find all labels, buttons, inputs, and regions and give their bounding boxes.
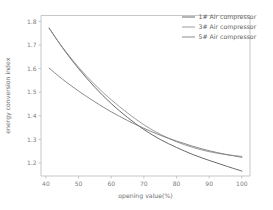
y-tick-label: 1.3 — [27, 136, 37, 143]
x-tick-label: 80 — [173, 180, 181, 187]
chart-legend: 1# Air compressor3# Air compressor5# Air… — [182, 13, 257, 41]
data-series-group — [49, 28, 242, 171]
series-line-1 — [49, 28, 242, 171]
x-tick-label: 90 — [205, 180, 213, 187]
line-chart: 405060708090100 1.21.31.41.51.61.71.8 op… — [0, 0, 273, 210]
x-tick-label: 100 — [236, 180, 248, 187]
x-tick-label: 50 — [75, 180, 83, 187]
legend-label-2: 3# Air compressor — [199, 23, 257, 31]
y-tick-label: 1.2 — [27, 159, 37, 166]
x-axis-ticks: 405060708090100 — [42, 176, 248, 187]
legend-label-3: 5# Air compressor — [199, 33, 257, 41]
series-line-3 — [49, 68, 242, 157]
y-tick-label: 1.4 — [27, 112, 37, 119]
x-tick-label: 40 — [42, 180, 50, 187]
x-axis-title: opening value(%) — [118, 192, 173, 200]
series-line-2 — [49, 28, 242, 156]
y-axis-ticks: 1.21.31.41.51.61.71.8 — [27, 18, 41, 167]
y-tick-label: 1.7 — [27, 41, 37, 48]
x-tick-label: 70 — [140, 180, 148, 187]
y-tick-label: 1.5 — [27, 88, 37, 95]
x-tick-label: 60 — [107, 180, 115, 187]
chart-figure: 405060708090100 1.21.31.41.51.61.71.8 op… — [0, 0, 273, 210]
y-axis-title: energy conversion index — [4, 57, 12, 134]
y-tick-label: 1.6 — [27, 65, 37, 72]
legend-label-1: 1# Air compressor — [199, 13, 257, 21]
y-tick-label: 1.8 — [27, 18, 37, 25]
